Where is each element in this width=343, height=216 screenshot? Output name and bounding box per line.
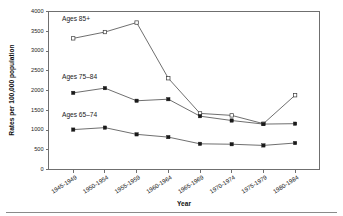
data-point [230,114,233,117]
series-line [73,88,295,124]
data-point [167,97,170,100]
series-label-1: Ages 85+ [62,15,90,23]
series-2 [72,86,297,125]
series-3 [72,126,297,147]
figure-container: 05001000150020002500300035004000 1945-19… [0,0,343,216]
x-axis: 1945-19491950-19541955-19591960-19641965… [50,170,300,195]
data-point [135,21,138,24]
y-tick-label: 2500 [31,67,43,73]
data-point [262,122,265,125]
x-tick-label: 1975-1979 [240,174,268,195]
data-point [135,133,138,136]
x-tick-label: 1955-1959 [114,174,142,195]
x-tick-label: 1960-1964 [145,174,173,195]
series-1 [72,21,297,126]
data-point [103,30,106,33]
data-point [198,114,201,117]
y-axis: 05001000150020002500300035004000 [31,8,48,172]
series-line [73,23,295,124]
x-tick-label: 1980-1984 [272,174,300,195]
data-point [293,122,296,125]
line-chart: 05001000150020002500300035004000 1945-19… [0,0,343,216]
data-point [167,135,170,138]
y-tick-label: 2000 [31,87,43,93]
y-tick-label: 1000 [31,126,43,132]
series-label-3: Ages 65–74 [62,111,98,119]
x-tick-label: 1950-1954 [82,174,110,195]
y-tick-label: 1500 [31,107,43,113]
series-labels: Ages 85+Ages 75–84Ages 65–74 [62,15,98,119]
data-point [293,141,296,144]
x-axis-title: Year [177,200,191,207]
data-point [262,144,265,147]
data-point [167,77,170,80]
data-point [135,99,138,102]
data-point [72,128,75,131]
data-point [72,37,75,40]
series-line [73,128,295,146]
data-point [230,119,233,122]
data-point [72,91,75,94]
y-tick-label: 0 [40,166,43,172]
x-tick-label: 1945-1949 [50,174,78,195]
x-tick-label: 1970-1974 [209,174,237,195]
y-tick-label: 4000 [31,8,43,14]
series-layer [72,21,297,147]
data-point [230,143,233,146]
y-tick-label: 3500 [31,28,43,34]
data-point [198,142,201,145]
data-point [103,86,106,89]
y-tick-label: 500 [34,146,43,152]
y-axis-title: Rates per 100,000 population [8,44,16,135]
data-point [293,94,296,97]
series-label-2: Ages 75–84 [62,73,98,81]
x-tick-label: 1965-1969 [177,174,205,195]
y-tick-label: 3000 [31,47,43,53]
data-point [103,126,106,129]
